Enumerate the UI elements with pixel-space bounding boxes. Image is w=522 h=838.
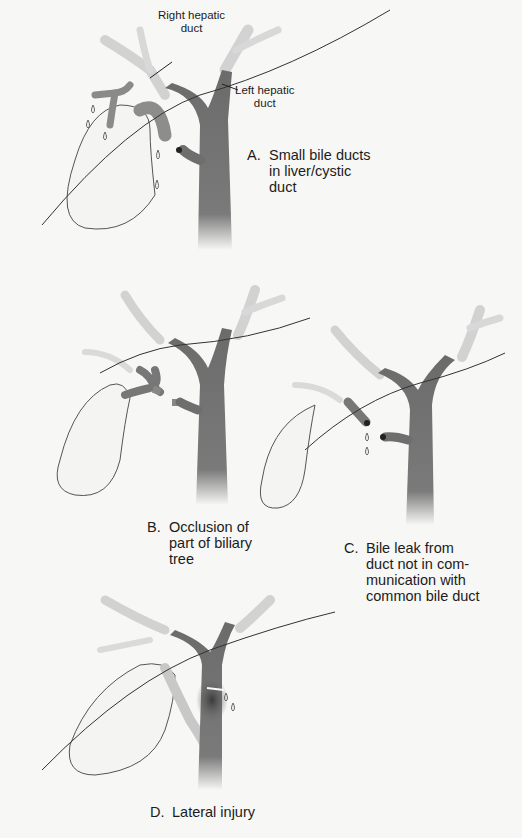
panel-b-caption: B. Occlusion of part of biliary tree (147, 519, 252, 567)
left-hepatic-duct-text: Left hepatic duct (235, 84, 294, 110)
panel-d-letter: D. (150, 804, 172, 820)
panel-b-letter: B. (147, 519, 169, 567)
panel-c-drawing (260, 310, 505, 525)
panel-a-drawing (42, 10, 390, 260)
panel-b-caption-text: Occlusion of part of biliary tree (169, 519, 252, 567)
panel-c-letter: C. (344, 540, 366, 604)
panel-a-caption: A. Small bile ducts in liver/cystic duct (247, 147, 371, 195)
panel-c-caption-text: Bile leak from duct not in com- municati… (366, 540, 480, 604)
panel-d-caption-text: Lateral injury (172, 804, 255, 820)
panel-c-caption: C. Bile leak from duct not in com- munic… (344, 540, 480, 604)
panel-d-drawing (42, 600, 335, 790)
panel-a-caption-text: Small bile ducts in liver/cystic duct (269, 147, 371, 195)
panel-d-caption: D. Lateral injury (150, 804, 255, 820)
right-hepatic-duct-label: Right hepatic duct (158, 9, 268, 35)
biliary-injury-illustration (0, 0, 522, 838)
right-hepatic-duct-text: Right hepatic duct (158, 9, 225, 35)
panel-a-letter: A. (247, 147, 269, 195)
left-hepatic-duct-label: Left hepatic duct (235, 84, 330, 110)
